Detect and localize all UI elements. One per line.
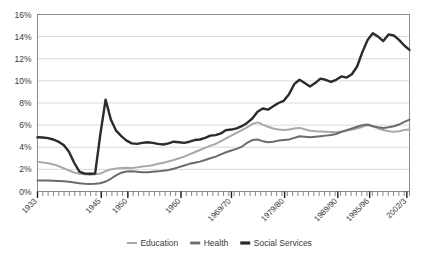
x-tick-label: 1933 [20,196,39,215]
y-tick-label: 10% [14,76,31,86]
chart-container: 0%2%4%6%8%10%12%14%16% 19331945195019601… [0,0,430,258]
y-axis-tick-labels: 0%2%4%6%8%10%12%14%16% [14,10,31,197]
y-tick-label: 6% [19,120,32,130]
line-chart: 0%2%4%6%8%10%12%14%16% 19331945195019601… [0,0,430,258]
chart-legend: EducationHealthSocial Services [127,238,312,248]
x-tick-label: 2002/3 [385,196,409,220]
gridlines [38,15,410,170]
y-tick-label: 8% [19,98,32,108]
x-tick-label: 1945 [84,196,103,215]
y-tick-label: 16% [14,10,31,20]
y-tick-label: 4% [19,142,32,152]
x-tick-label: 1995/96 [344,196,371,223]
x-axis-minor-ticks [38,192,410,197]
x-tick-label: 1960 [163,196,182,215]
x-tick-label: 1989/90 [312,196,339,223]
data-series-lines [38,33,410,184]
x-tick-label: 1979/80 [259,196,286,223]
legend-label-health: Health [204,238,229,248]
legend-label-social-services: Social Services [254,238,312,248]
legend-label-education: Education [140,238,178,248]
x-axis-tick-labels: 19331945195019601969/701979/801989/90199… [20,196,409,223]
x-tick-label: 1969/70 [206,196,233,223]
series-line-education [38,122,410,174]
x-axis-major-ticks [38,192,407,199]
y-tick-label: 2% [19,164,32,174]
y-tick-label: 12% [14,54,31,64]
y-tick-label: 0% [19,187,32,197]
x-tick-label: 1950 [110,196,129,215]
y-tick-label: 14% [14,32,31,42]
